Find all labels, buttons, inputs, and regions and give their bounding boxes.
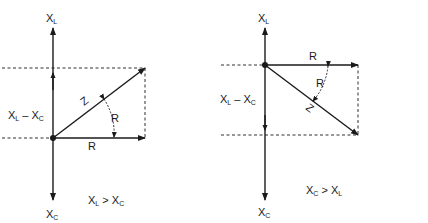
reactance-difference-label: XL – XC [220, 93, 256, 106]
axis-bottom-label: XC [46, 208, 58, 221]
diagram-capacitive: XL XC XL – XC R R Z XC > XL [220, 12, 358, 219]
axis-top-label: XL [46, 12, 57, 25]
resistance-label: R [88, 140, 96, 152]
resistance-label: R [309, 50, 317, 62]
angle-label: R [316, 77, 324, 89]
condition-label: XC > XL [306, 184, 342, 197]
impedance-diagrams: XL XC XL – XC R R Z XL > XC XL XC XL – X… [0, 0, 428, 223]
axis-top-label: XL [258, 12, 269, 25]
condition-label: XL > XC [88, 194, 124, 207]
origin-dot [262, 62, 268, 68]
impedance-arrow [265, 65, 358, 135]
origin-dot [50, 135, 56, 141]
angle-label: R [111, 112, 119, 124]
reactance-difference-label: XL – XC [8, 109, 44, 122]
diagram-inductive: XL XC XL – XC R R Z XL > XC [2, 12, 145, 221]
impedance-label: Z [78, 94, 91, 108]
impedance-label: Z [304, 101, 317, 115]
axis-bottom-label: XC [258, 206, 270, 219]
impedance-arrow [53, 68, 145, 138]
